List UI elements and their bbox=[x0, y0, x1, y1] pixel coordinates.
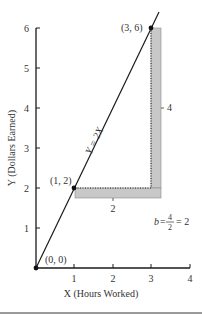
y-tick-label: 5 bbox=[24, 63, 29, 74]
y-tick-label: 3 bbox=[24, 143, 29, 154]
svg-text:= 2: = 2 bbox=[176, 216, 189, 227]
svg-text:4: 4 bbox=[168, 213, 172, 222]
x-tick-label: 2 bbox=[111, 273, 116, 284]
y-axis-title: Y (Dollars Earned) bbox=[6, 110, 18, 186]
x-tick-label: 4 bbox=[188, 273, 193, 284]
slope-formula: b = 4 2 = 2 bbox=[154, 213, 189, 232]
x-tick-label: 1 bbox=[72, 273, 77, 284]
rise-bar bbox=[151, 28, 161, 188]
y-tick-label: 1 bbox=[24, 223, 29, 234]
y-tick-label: 4 bbox=[24, 103, 29, 114]
svg-text:2: 2 bbox=[168, 223, 172, 232]
line-equation-label: Y = 2X bbox=[83, 125, 106, 156]
bottom-rule bbox=[0, 312, 202, 314]
point-label-origin: (0, 0) bbox=[45, 254, 67, 266]
point-label-1-2: (1, 2) bbox=[50, 175, 72, 187]
point-3-6 bbox=[149, 26, 154, 31]
point-origin bbox=[34, 266, 39, 271]
run-label: 2 bbox=[111, 203, 116, 214]
x-tick-label: 3 bbox=[149, 273, 154, 284]
rise-label: 4 bbox=[167, 102, 172, 113]
run-bar bbox=[75, 188, 161, 198]
svg-text:b: b bbox=[154, 216, 159, 227]
point-1-2 bbox=[72, 186, 77, 191]
x-axis-title: X (Hours Worked) bbox=[64, 288, 139, 300]
svg-text:=: = bbox=[160, 216, 166, 227]
point-label-3-6: (3, 6) bbox=[121, 22, 143, 34]
y-tick-label: 2 bbox=[24, 183, 29, 194]
y-tick-label: 6 bbox=[24, 23, 29, 34]
chart: 6 5 4 3 2 1 1 2 3 4 (0, 0) (1, 2) (3, 6)… bbox=[0, 0, 202, 315]
